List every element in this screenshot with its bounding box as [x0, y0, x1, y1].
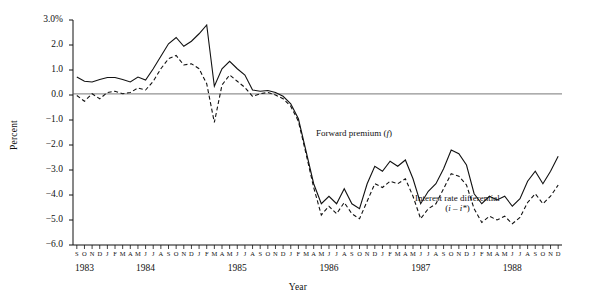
y-tick-label: 2.0 — [19, 39, 63, 49]
annotation-interest-rate-differential: Interest rate differential (i – i*) — [415, 193, 500, 213]
x-year-label: 1984 — [126, 263, 166, 273]
y-tick-label: −6.0 — [19, 239, 63, 249]
x-year-label: 1986 — [309, 263, 349, 273]
annotation-forward-premium-text: Forward premium (f) — [316, 128, 392, 138]
y-tick-label: −2.0 — [19, 139, 63, 149]
x-year-label: 1985 — [217, 263, 257, 273]
y-tick-label: −5.0 — [19, 214, 63, 224]
chart-figure: 3.0%2.01.00.0−1.0−2.0−3.0−4.0−5.0−6.0 SO… — [0, 0, 602, 304]
y-tick-marks — [69, 20, 73, 245]
y-tick-label: 0.0 — [19, 89, 63, 99]
x-tick-marks — [77, 245, 558, 249]
annotation-differential-line2: (i – i*) — [415, 203, 500, 213]
annotation-forward-premium: Forward premium (f) — [316, 128, 392, 138]
x-axis-title: Year — [268, 282, 328, 292]
series-line-forward-premium — [77, 25, 558, 209]
y-tick-label: −4.0 — [19, 189, 63, 199]
annotation-differential-line1: Interest rate differential — [415, 193, 500, 203]
x-year-label: 1988 — [492, 263, 532, 273]
x-month-label: D — [551, 250, 565, 257]
y-tick-label: −3.0 — [19, 164, 63, 174]
y-tick-label: 1.0 — [19, 64, 63, 74]
y-tick-label: −1.0 — [19, 114, 63, 124]
line-chart-canvas — [0, 0, 602, 304]
y-axis-title: Percent — [9, 105, 19, 165]
x-year-label: 1987 — [401, 263, 441, 273]
x-year-label: 1983 — [64, 263, 104, 273]
y-tick-label: 3.0% — [19, 14, 63, 24]
